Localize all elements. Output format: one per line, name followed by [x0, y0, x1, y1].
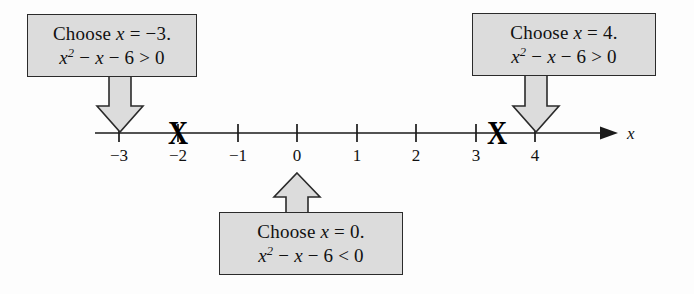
callout-right-line1: Choose x = 4. [510, 21, 617, 44]
callout-box-right: Choose x = 4. x2 − x − 6 > 0 [472, 13, 656, 76]
tick-label-1: 1 [337, 146, 377, 166]
callout-box-left: Choose x = −3. x2 − x − 6 > 0 [27, 14, 197, 77]
tick-label-minus1: −1 [218, 146, 258, 166]
callout-left-line1: Choose x = −3. [53, 22, 171, 45]
number-line-figure: −3 −2 −1 0 1 2 3 4 x X X Choose x = −3. … [0, 0, 694, 294]
tick-label-4: 4 [515, 146, 555, 166]
callout-box-bottom: Choose x = 0. x2 − x − 6 < 0 [219, 212, 403, 275]
callout-bottom-line1: Choose x = 0. [257, 220, 364, 243]
axis-label-x: x [627, 124, 635, 144]
tick-label-2: 2 [396, 146, 436, 166]
critical-point-marker-3: X [485, 116, 510, 150]
callout-arrow-left [96, 74, 144, 134]
callout-bottom-expression: x2 − x − 6 < 0 [258, 244, 364, 267]
callout-arrow-bottom [273, 172, 321, 216]
tick-label-0: 0 [277, 146, 317, 166]
callout-right-expression: x2 − x − 6 > 0 [511, 45, 617, 68]
callout-arrow-right [512, 74, 560, 134]
critical-point-marker-minus2: X [166, 116, 191, 150]
tick-label-minus3: −3 [99, 146, 139, 166]
axis-arrowhead [600, 127, 618, 140]
callout-left-expression: x2 − x − 6 > 0 [59, 46, 165, 69]
